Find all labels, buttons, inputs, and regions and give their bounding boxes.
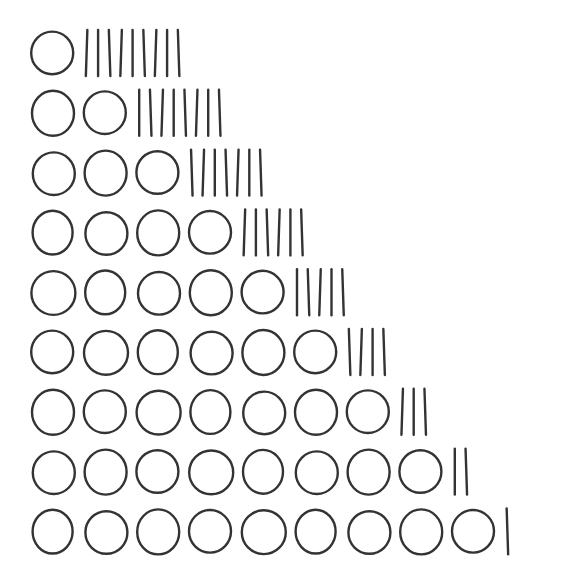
circle-icon [294, 331, 336, 374]
circle-icon [242, 271, 284, 314]
circle-icon [399, 450, 441, 493]
circle-icon [296, 451, 338, 494]
circle-icon [137, 509, 179, 554]
circle-icon [136, 151, 178, 194]
diagram-row [31, 269, 343, 315]
diagram-canvas [0, 0, 569, 588]
tally-line-icon [86, 30, 88, 76]
tally-line-icon [260, 150, 262, 196]
circle-icon [348, 450, 390, 495]
tally-line-icon [161, 90, 163, 136]
circle-icon [136, 450, 178, 493]
circle-icon [137, 210, 179, 255]
diagram-row [32, 389, 426, 435]
tally-line-icon [342, 269, 344, 315]
circle-icon [32, 390, 74, 435]
circle-icon [85, 271, 125, 315]
tally-line-icon [150, 90, 152, 136]
tally-line-icon [244, 209, 246, 255]
diagram-row [33, 209, 303, 255]
circle-icon [242, 510, 286, 554]
tally-line-icon [349, 329, 351, 375]
circle-icon [85, 450, 127, 495]
circle-icon [84, 331, 128, 375]
circle-icon [85, 151, 127, 196]
tally-line-icon [120, 30, 122, 76]
diagram-row [33, 449, 467, 495]
circle-icon [452, 510, 494, 553]
tally-line-icon [191, 150, 193, 196]
circle-icon [85, 212, 127, 255]
tally-line-icon [360, 329, 362, 375]
circle-icon [84, 390, 126, 433]
circle-icon [137, 391, 181, 435]
tally-line-icon [301, 209, 303, 255]
tally-line-icon [237, 150, 239, 196]
tally-line-icon [143, 30, 145, 76]
circle-icon [138, 330, 178, 374]
circle-icon [243, 392, 285, 435]
circle-icon [85, 511, 127, 554]
tally-line-icon [196, 90, 198, 136]
diagram-row [33, 508, 509, 554]
circle-icon [347, 390, 389, 433]
circle-icon [242, 330, 284, 375]
tally-line-icon [226, 150, 228, 196]
circle-icon [33, 510, 73, 554]
tally-line-icon [319, 269, 321, 315]
tally-line-icon [401, 389, 403, 435]
tally-line-icon [109, 30, 111, 76]
circle-icon [31, 32, 73, 75]
circle-icon [189, 451, 233, 495]
circle-icon [191, 332, 233, 375]
circle-icon [138, 272, 180, 315]
tally-line-icon [466, 449, 468, 495]
circle-icon [31, 271, 75, 315]
circle-icon [190, 390, 230, 434]
circle-icon [32, 91, 74, 136]
circle-icon [295, 390, 337, 435]
circle-icon [189, 211, 231, 254]
tally-line-icon [383, 329, 385, 375]
diagram-row [32, 90, 220, 136]
circle-icon [33, 152, 75, 195]
tally-line-icon [203, 150, 205, 196]
circle-icon [400, 509, 442, 554]
tally-line-icon [155, 30, 157, 76]
tally-line-icon [308, 269, 310, 315]
tally-line-icon [278, 209, 280, 255]
circle-icon [189, 510, 231, 553]
tally-line-icon [267, 209, 269, 255]
tally-line-icon [424, 389, 426, 435]
circle-icon [296, 510, 336, 554]
tally-line-icon [507, 508, 509, 554]
tally-line-icon [184, 90, 186, 136]
tally-line-icon [178, 30, 180, 76]
tally-line-icon [219, 90, 221, 136]
circle-icon [243, 450, 283, 494]
circle-icon [84, 91, 126, 134]
circle-icon [31, 331, 73, 374]
diagram-row [31, 329, 385, 375]
circle-icon [348, 511, 390, 554]
circle-icon [33, 451, 75, 494]
diagram-row [31, 30, 179, 76]
circle-icon [190, 270, 232, 315]
diagram-row [33, 150, 262, 196]
circle-icon [33, 211, 73, 255]
